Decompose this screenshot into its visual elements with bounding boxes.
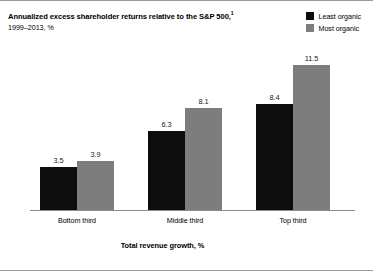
bar-value-label: 8.1 <box>185 97 222 106</box>
x-axis-tick-label: Middle third <box>148 216 222 225</box>
bar-slot: 6.3 <box>148 52 185 211</box>
bar-value-label: 3.5 <box>40 156 77 165</box>
bar-most-organic <box>293 65 330 211</box>
legend-item-least-organic: Least organic <box>306 11 361 21</box>
bar-slot: 11.5 <box>293 52 330 211</box>
bar-groups: 3.5 3.9 6.3 8.1 <box>40 52 343 211</box>
bar-slot: 8.1 <box>185 52 222 211</box>
bar-group-bottom-third: 3.5 3.9 <box>40 52 114 211</box>
chart-header: Annualized excess shareholder returns re… <box>8 12 268 33</box>
legend-swatch-icon <box>306 24 314 32</box>
legend-swatch-icon <box>306 12 314 20</box>
bar-value-label: 6.3 <box>148 120 185 129</box>
chart-title: Annualized excess shareholder returns re… <box>8 12 268 22</box>
bar-slot: 8.4 <box>256 52 293 211</box>
top-divider <box>0 0 373 1</box>
legend-label: Most organic <box>318 24 359 33</box>
bar-value-label: 8.4 <box>256 93 293 102</box>
bar-value-label: 3.9 <box>77 150 114 159</box>
bar-value-label: 11.5 <box>293 54 330 63</box>
bottom-divider <box>0 270 373 271</box>
chart-legend: Least organic Most organic <box>306 11 361 33</box>
legend-item-most-organic: Most organic <box>306 23 361 33</box>
bar-least-organic <box>40 167 77 211</box>
x-axis-category-labels: Bottom third Middle third Top third <box>40 216 343 225</box>
chart-title-text: Annualized excess shareholder returns re… <box>8 12 231 21</box>
x-axis-tick-label: Top third <box>256 216 330 225</box>
x-axis-baseline <box>30 210 355 211</box>
plot-area: 3.5 3.9 6.3 8.1 <box>40 52 343 211</box>
x-axis-tick-label: Bottom third <box>40 216 114 225</box>
legend-label: Least organic <box>318 12 361 21</box>
chart-title-footnote-marker: 1 <box>231 10 234 16</box>
bar-least-organic <box>256 104 293 211</box>
chart-subtitle: 1999–2013, % <box>8 23 268 33</box>
bar-group-middle-third: 6.3 8.1 <box>148 52 222 211</box>
bar-slot: 3.9 <box>77 52 114 211</box>
bar-most-organic <box>77 161 114 211</box>
x-axis-title: Total revenue growth, % <box>0 241 325 250</box>
bar-most-organic <box>185 108 222 211</box>
chart-figure: Annualized excess shareholder returns re… <box>0 0 373 272</box>
bar-least-organic <box>148 131 185 211</box>
bar-group-top-third: 8.4 11.5 <box>256 52 330 211</box>
bar-slot: 3.5 <box>40 52 77 211</box>
